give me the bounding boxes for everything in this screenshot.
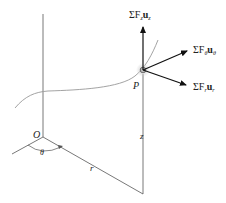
- origin-label: O: [33, 129, 40, 140]
- point-label: P: [132, 80, 139, 91]
- svg-text:ΣFθuθ: ΣFθuθ: [193, 44, 216, 56]
- force-theta-label: ΣFθuθ: [193, 44, 216, 56]
- z-label: z: [139, 131, 144, 141]
- theta-label: θ: [40, 148, 44, 157]
- force-z-label: ΣFzuz: [129, 9, 151, 21]
- r-label: r: [90, 163, 94, 173]
- theta-arc: [28, 145, 61, 151]
- diagram-canvas: O P θ r z ΣFzuz ΣFθuθ ΣFrur: [0, 0, 226, 203]
- force-r-label: ΣFrur: [193, 81, 215, 93]
- svg-text:ΣFrur: ΣFrur: [193, 81, 215, 93]
- force-r-arrow: [143, 70, 186, 85]
- svg-text:ΣFzuz: ΣFzuz: [129, 9, 151, 21]
- force-theta-arrow: [143, 51, 187, 70]
- path-curve: [15, 40, 158, 108]
